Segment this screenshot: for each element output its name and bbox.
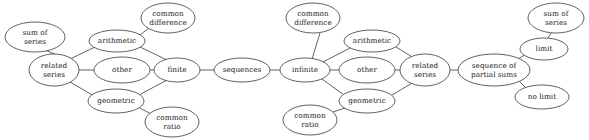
node-label-sequence-partial-sums: sequence of [472, 61, 518, 70]
node-related-series-right[interactable]: relatedseries [400, 54, 450, 86]
node-label-finite: finite [167, 65, 186, 74]
node-label-line2-common-ratio-left: ratio [163, 122, 181, 131]
node-label-other-right: other [357, 65, 377, 74]
node-label-infinite: infinite [292, 65, 318, 74]
node-label-arithmetic-right: arithmetic [353, 36, 391, 45]
node-no-limit[interactable]: no limit [515, 85, 569, 109]
node-label-related-series-left: related [41, 61, 68, 70]
node-label-geometric-left: geometric [97, 96, 134, 105]
node-infinite[interactable]: infinite [280, 58, 330, 82]
node-common-difference-left[interactable]: commondifference [141, 3, 195, 33]
node-label-line2-common-difference-mid: difference [294, 18, 331, 27]
concept-map-diagram: sum ofseriesrelatedseriesarithmeticcommo… [0, 0, 589, 140]
node-label-line2-related-series-right: series [414, 70, 436, 79]
edge-related-series-left-to-geometric-left [70, 82, 94, 96]
node-label-line2-common-ratio-mid: ratio [301, 120, 319, 129]
edge-infinite-to-arithmetic-right [323, 48, 350, 62]
node-other-right[interactable]: other [339, 57, 395, 83]
node-label-line2-sequence-partial-sums: partial sums [471, 70, 517, 79]
node-label-common-difference-left: common [152, 9, 184, 18]
node-label-line2-related-series-left: series [43, 70, 65, 79]
edge-geometric-left-to-finite [139, 80, 167, 95]
node-label-sequences: sequences [223, 65, 262, 74]
node-limit[interactable]: limit [520, 38, 568, 60]
node-common-difference-mid[interactable]: commondifference [286, 3, 340, 33]
diagram-canvas: sum ofseriesrelatedseriesarithmeticcommo… [0, 0, 589, 140]
edge-infinite-to-geometric-right [322, 79, 344, 95]
node-sequences[interactable]: sequences [214, 58, 270, 82]
edge-geometric-right-to-related-series-right [392, 82, 414, 95]
node-label-arithmetic-left: arithmetic [98, 36, 136, 45]
node-related-series-left[interactable]: relatedseries [29, 54, 79, 86]
edge-limit-to-sum-of-series-right [548, 33, 551, 38]
node-label-related-series-right: related [412, 61, 439, 70]
node-label-limit: limit [536, 44, 553, 53]
node-arithmetic-left[interactable]: arithmetic [89, 30, 145, 52]
node-label-common-ratio-left: common [156, 113, 188, 122]
edge-infinite-to-common-difference-mid [312, 33, 320, 59]
node-sum-of-series-left[interactable]: sum ofseries [5, 22, 65, 52]
node-label-other-left: other [112, 65, 132, 74]
node-geometric-right[interactable]: geometric [339, 89, 395, 113]
node-common-ratio-left[interactable]: commonratio [145, 107, 199, 137]
node-label-line2-common-difference-left: difference [149, 18, 186, 27]
node-label-common-difference-mid: common [297, 9, 329, 18]
node-label-line2-sum-of-series-right: series [545, 18, 567, 27]
node-geometric-left[interactable]: geometric [88, 89, 144, 113]
node-sequence-partial-sums[interactable]: sequence ofpartial sums [458, 54, 530, 86]
node-arithmetic-right[interactable]: arithmetic [344, 30, 400, 52]
node-label-sum-of-series-right: sum of [544, 9, 570, 18]
node-finite[interactable]: finite [154, 58, 200, 82]
node-label-common-ratio-mid: common [294, 111, 326, 120]
node-label-line2-sum-of-series-left: series [24, 37, 46, 46]
edge-arithmetic-left-to-finite [140, 47, 167, 60]
node-label-sum-of-series-left: sum of [23, 28, 49, 37]
edge-related-series-left-to-arithmetic-left [70, 47, 95, 59]
node-sum-of-series-right[interactable]: sum ofseries [528, 3, 584, 33]
node-common-ratio-mid[interactable]: commonratio [283, 105, 337, 135]
node-label-geometric-right: geometric [348, 96, 385, 105]
node-other-left[interactable]: other [94, 57, 150, 83]
node-label-no-limit: no limit [528, 92, 556, 101]
